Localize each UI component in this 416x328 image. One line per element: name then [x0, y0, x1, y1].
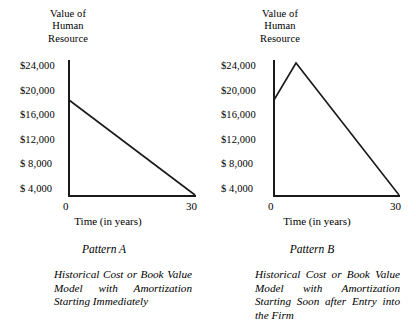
figure-page: Value of Human Resource $24,000 $20,000 …: [0, 0, 416, 328]
plot-area: $24,000 $20,000 $16,000 $12,000 $ 8,000 …: [0, 0, 208, 210]
data-series-line: [208, 0, 416, 210]
data-series-line: [0, 0, 208, 210]
pattern-title: Pattern B: [208, 243, 416, 256]
chart-panel-pattern-b: Value of Human Resource $24,000 $20,000 …: [208, 0, 416, 328]
plot-area: $24,000 $20,000 $16,000 $12,000 $ 8,000 …: [208, 0, 416, 210]
x-axis-caption: Time (in years): [18, 215, 198, 228]
x-axis-caption: Time (in years): [222, 215, 412, 228]
chart-panel-pattern-a: Value of Human Resource $24,000 $20,000 …: [0, 0, 208, 328]
pattern-caption: Historical Cost or Book Value Model with…: [54, 268, 192, 309]
pattern-caption: Historical Cost or Book Value Model with…: [255, 268, 400, 322]
pattern-title: Pattern A: [0, 243, 208, 256]
